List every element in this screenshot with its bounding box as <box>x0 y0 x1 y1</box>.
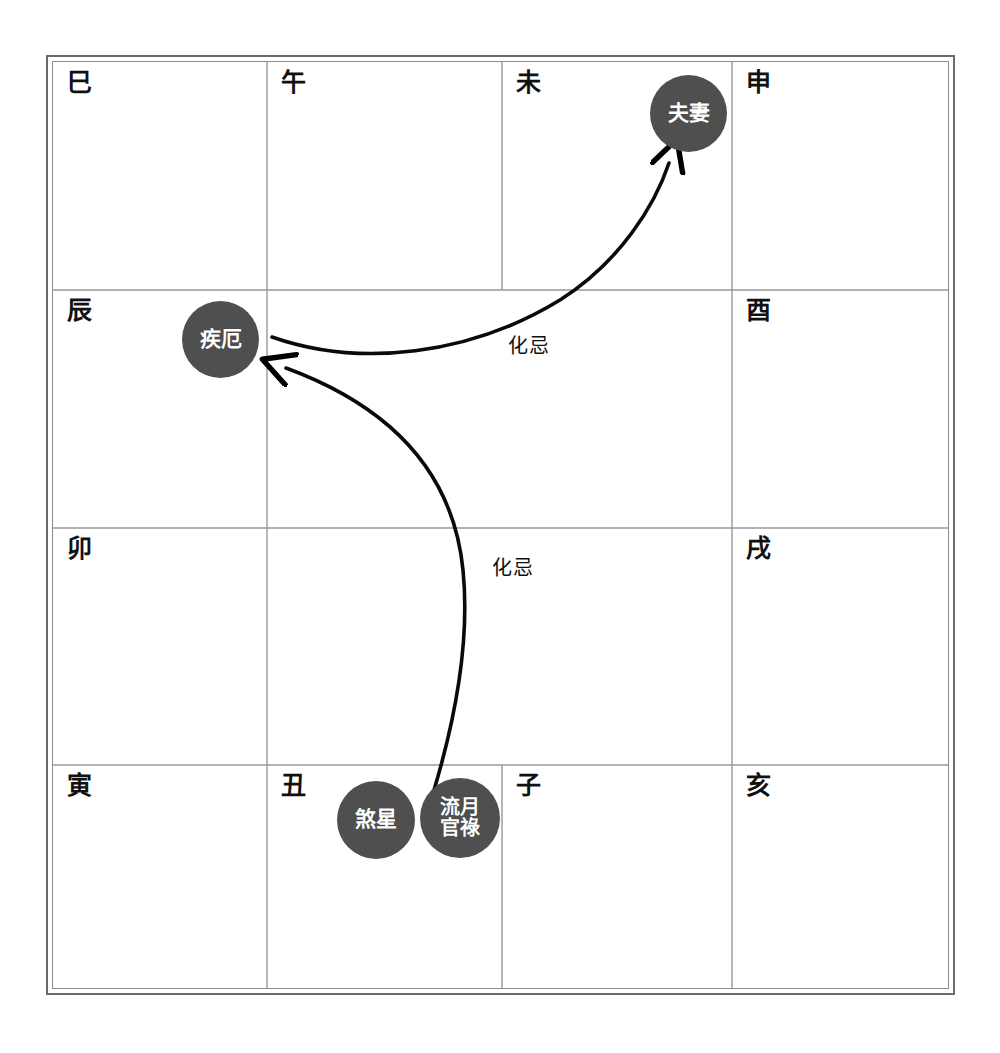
palace-label-shen: 申 <box>746 70 772 95</box>
palace-label-yin: 寅 <box>67 773 93 798</box>
palace-label-you: 酉 <box>746 298 772 323</box>
ziwei-chart-diagram: 巳 午 未 申 辰 酉 卯 戌 寅 丑 子 亥 <box>0 0 1000 1053</box>
palace-cell-hai[interactable]: 亥 <box>732 765 948 988</box>
palace-label-chou: 丑 <box>281 773 307 798</box>
star-label-shaxing: 煞星 <box>355 809 397 830</box>
star-label-fuqi: 夫妻 <box>668 103 710 124</box>
star-label-liuyue-guanlu: 流月 官祿 <box>440 797 480 839</box>
palace-cell-mao[interactable]: 卯 <box>53 528 267 765</box>
star-circle-jie[interactable]: 疾厄 <box>182 301 259 378</box>
flow-label-jie-to-fuqi: 化忌 <box>508 330 550 359</box>
flow-label-liuyue-to-jie: 化忌 <box>492 552 534 581</box>
star-circle-liuyue-guanlu[interactable]: 流月 官祿 <box>420 778 500 858</box>
palace-cell-yin[interactable]: 寅 <box>53 765 267 988</box>
palace-cell-wu[interactable]: 午 <box>267 62 502 290</box>
palace-label-si: 巳 <box>67 70 93 95</box>
palace-cell-you[interactable]: 酉 <box>732 290 948 528</box>
palace-center-region <box>267 290 732 765</box>
palace-label-chen: 辰 <box>67 298 93 323</box>
palace-label-wei: 未 <box>516 70 542 95</box>
palace-cell-zi[interactable]: 子 <box>502 765 732 988</box>
star-circle-shaxing[interactable]: 煞星 <box>337 781 415 859</box>
palace-cell-xu[interactable]: 戌 <box>732 528 948 765</box>
palace-cell-si[interactable]: 巳 <box>53 62 267 290</box>
palace-label-xu: 戌 <box>746 536 772 561</box>
palace-label-wu: 午 <box>281 70 307 95</box>
palace-label-mao: 卯 <box>67 536 93 561</box>
star-circle-fuqi[interactable]: 夫妻 <box>650 75 727 152</box>
palace-label-hai: 亥 <box>746 773 772 798</box>
star-label-jie: 疾厄 <box>200 329 242 350</box>
palace-cell-shen[interactable]: 申 <box>732 62 948 290</box>
palace-label-zi: 子 <box>516 773 542 798</box>
